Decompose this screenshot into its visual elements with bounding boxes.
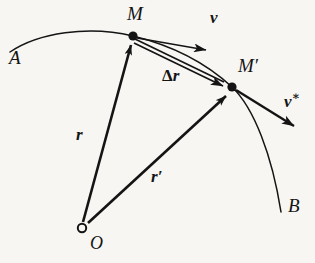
point-marker-m bbox=[128, 31, 137, 40]
vector-label-r-prime: r′ bbox=[151, 168, 162, 185]
vector-label-r-prime-mark: ′ bbox=[158, 167, 163, 186]
point-label-m-prime: M′ bbox=[238, 56, 258, 75]
vector-label-v-star: v∗ bbox=[284, 90, 300, 110]
point-label-m: M bbox=[127, 4, 143, 23]
vector-label-r: r bbox=[76, 126, 83, 143]
delta-symbol: Δ bbox=[162, 66, 173, 85]
vector-diagram-figure: A B M M′ O r r′ Δr v v∗ bbox=[0, 0, 315, 263]
point-marker-m-prime bbox=[227, 82, 236, 91]
radius-vector-r bbox=[83, 45, 131, 222]
point-label-m-prime-mark: ′ bbox=[254, 55, 258, 76]
curve-end-label-b: B bbox=[288, 196, 300, 215]
vector-label-v-star-mark: ∗ bbox=[292, 89, 300, 103]
vector-label-delta-r-base: r bbox=[173, 66, 180, 85]
origin-marker bbox=[78, 224, 86, 232]
curve-start-label-a: A bbox=[9, 48, 21, 67]
vector-label-r-prime-base: r bbox=[151, 167, 158, 186]
origin-label-o: O bbox=[90, 234, 103, 252]
radius-vector-r-prime bbox=[88, 96, 226, 223]
point-label-m-prime-base: M bbox=[238, 55, 254, 76]
vector-label-v: v bbox=[210, 9, 218, 26]
vector-label-v-star-base: v bbox=[284, 92, 292, 111]
diagram-canvas bbox=[0, 0, 315, 263]
vector-label-delta-r: Δr bbox=[162, 67, 179, 84]
